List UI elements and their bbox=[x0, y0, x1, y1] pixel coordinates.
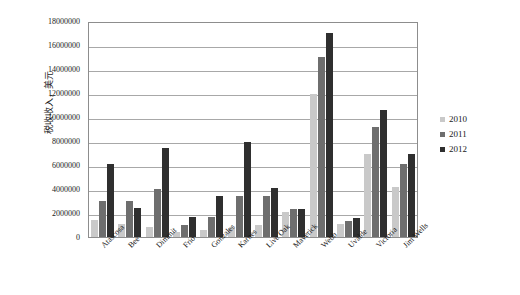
legend-label: 2012 bbox=[449, 145, 467, 154]
y-tick-label: 12000000 bbox=[22, 90, 80, 98]
bar-2011 bbox=[345, 221, 352, 237]
bar-chart: 税收收入，美元 18000000160000001400000012000000… bbox=[0, 0, 520, 295]
bar-2010 bbox=[337, 224, 344, 237]
bar-2011 bbox=[400, 164, 407, 237]
bar-2011 bbox=[99, 201, 106, 237]
bar-group bbox=[253, 23, 280, 237]
bar-2010 bbox=[146, 227, 153, 237]
bar-groups bbox=[89, 23, 417, 237]
y-tick-label: 6000000 bbox=[22, 162, 80, 170]
bar-2012 bbox=[380, 110, 387, 237]
bar-2012 bbox=[107, 164, 114, 237]
bar-group bbox=[116, 23, 143, 237]
bar-2012 bbox=[326, 33, 333, 237]
y-tick-label: 4000000 bbox=[22, 186, 80, 194]
bar-2011 bbox=[372, 127, 379, 237]
legend-label: 2011 bbox=[449, 130, 467, 139]
legend-item-2010[interactable]: 2010 bbox=[440, 112, 510, 127]
bar-group bbox=[89, 23, 116, 237]
y-tick-label: 16000000 bbox=[22, 42, 80, 50]
bar-2010 bbox=[310, 94, 317, 237]
bar-2012 bbox=[162, 148, 169, 237]
bar-group bbox=[308, 23, 335, 237]
legend-item-2011[interactable]: 2011 bbox=[440, 127, 510, 142]
bar-group bbox=[390, 23, 417, 237]
legend-item-2012[interactable]: 2012 bbox=[440, 142, 510, 157]
bar-2012 bbox=[134, 208, 141, 237]
bar-2010 bbox=[200, 230, 207, 237]
plot-area bbox=[88, 22, 418, 238]
bar-2012 bbox=[244, 142, 251, 237]
y-tick-label: 2000000 bbox=[22, 210, 80, 218]
bar-2010 bbox=[91, 220, 98, 237]
bar-2011 bbox=[208, 217, 215, 237]
y-tick-label: 14000000 bbox=[22, 66, 80, 74]
bar-2011 bbox=[318, 57, 325, 237]
bar-2011 bbox=[290, 209, 297, 237]
y-tick-label: 10000000 bbox=[22, 114, 80, 122]
bar-group bbox=[226, 23, 253, 237]
bar-2010 bbox=[364, 154, 371, 237]
bar-2011 bbox=[236, 196, 243, 237]
bar-2012 bbox=[408, 154, 415, 237]
bar-2011 bbox=[181, 225, 188, 237]
bar-group bbox=[335, 23, 362, 237]
legend-swatch-icon bbox=[440, 147, 445, 152]
legend-swatch-icon bbox=[440, 132, 445, 137]
legend-label: 2010 bbox=[449, 115, 467, 124]
y-tick-label: 8000000 bbox=[22, 138, 80, 146]
bar-group bbox=[280, 23, 307, 237]
bar-2011 bbox=[126, 201, 133, 237]
bar-2011 bbox=[263, 196, 270, 237]
y-tick-label: 0 bbox=[22, 234, 80, 242]
y-tick-label: 18000000 bbox=[22, 18, 80, 26]
legend: 201020112012 bbox=[440, 112, 510, 157]
bar-group bbox=[362, 23, 389, 237]
bar-group bbox=[171, 23, 198, 237]
bar-2011 bbox=[154, 189, 161, 237]
x-axis-tick-labels: AtascosaBeeDimmitFrioGonzalesKarnesLive … bbox=[88, 240, 418, 295]
bar-group bbox=[144, 23, 171, 237]
bar-group bbox=[198, 23, 225, 237]
legend-swatch-icon bbox=[440, 117, 445, 122]
